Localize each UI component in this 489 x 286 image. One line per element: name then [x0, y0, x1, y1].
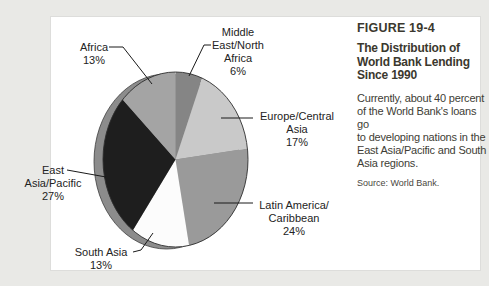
label-latin-pct: 24%	[250, 225, 338, 238]
label-east-asia: East Asia/Pacific 27%	[21, 164, 85, 203]
label-east-asia-line2: Asia/Pacific	[21, 177, 85, 190]
label-africa-name: Africa	[64, 41, 124, 54]
caption-line3: to developing nations in the	[357, 131, 489, 144]
label-middle-east-line2: East/North	[203, 39, 273, 52]
figure-title-line3: Since 1990	[357, 69, 481, 83]
label-europe: Europe/Central Asia 17%	[253, 110, 341, 149]
figure-source: Source: World Bank.	[357, 178, 481, 188]
label-east-asia-pct: 27%	[21, 190, 85, 203]
label-middle-east-pct: 6%	[203, 65, 273, 78]
caption-line5: Asia regions.	[357, 157, 489, 170]
figure-caption-text: Currently, about 40 percent of the World…	[357, 92, 489, 170]
label-latin: Latin America/ Caribbean 24%	[250, 199, 338, 238]
label-east-asia-line1: East	[21, 164, 85, 177]
caption-line4: East Asia/Pacific and South	[357, 144, 489, 157]
label-latin-line1: Latin America/	[250, 199, 338, 212]
label-africa-pct: 13%	[64, 54, 124, 67]
label-europe-pct: 17%	[253, 136, 341, 149]
label-latin-line2: Caribbean	[250, 212, 338, 225]
label-europe-line2: Asia	[253, 123, 341, 136]
label-middle-east: Middle East/North Africa 6%	[203, 26, 273, 78]
label-south-asia: South Asia 13%	[69, 246, 133, 272]
figure-number: FIGURE 19-4	[357, 21, 481, 35]
figure-caption-block: FIGURE 19-4 The Distribution of World Ba…	[357, 21, 481, 188]
label-middle-east-line3: Africa	[203, 52, 273, 65]
label-south-asia-pct: 13%	[69, 259, 133, 272]
figure-title-line1: The Distribution of	[357, 42, 481, 56]
caption-line2: of the World Bank's loans go	[357, 105, 489, 131]
label-south-asia-name: South Asia	[69, 246, 133, 259]
label-africa: Africa 13%	[64, 41, 124, 67]
label-europe-line1: Europe/Central	[253, 110, 341, 123]
figure-title-line2: World Bank Lending	[357, 56, 481, 70]
label-middle-east-line1: Middle	[203, 26, 273, 39]
caption-line1: Currently, about 40 percent	[357, 92, 489, 105]
figure-title: The Distribution of World Bank Lending S…	[357, 42, 481, 83]
